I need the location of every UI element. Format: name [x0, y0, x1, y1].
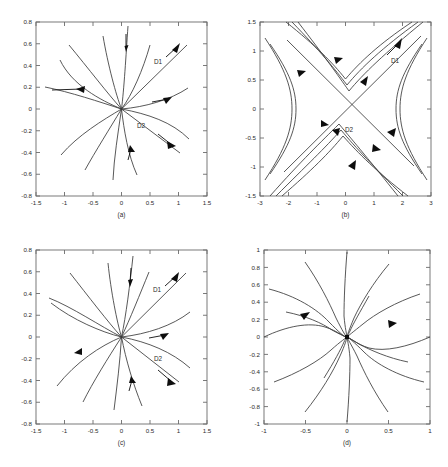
panel-c-ytick-0: 0.8 — [23, 246, 32, 253]
panel-c-ytick-4: 0 — [29, 333, 33, 340]
panel-d-ytick-2: 0.6 — [251, 281, 260, 288]
panel-c-ytick-3: 0.2 — [23, 311, 32, 318]
panel-b-label: (b) — [342, 211, 350, 219]
panel-b-ytick-4: -0.5 — [245, 134, 256, 141]
panel-a-ytick-5: -0.2 — [21, 127, 32, 134]
panel-a-ytick-8: -0.8 — [21, 192, 32, 199]
panel-d-equilibrium-point — [345, 335, 349, 339]
panel-a-xtick-1: -1 — [62, 199, 68, 206]
panel-b-xtick-4: 1 — [372, 199, 376, 206]
panel-a-arrow-tails — [52, 34, 177, 160]
panel-a-xtick-2: -0.5 — [88, 199, 99, 206]
panel-d-plot: -1 -0.5 0 0.5 1 1 0.8 0.6 0.4 0.2 0 -0.2… — [224, 234, 448, 467]
panel-a-ytick-4: 0 — [29, 105, 33, 112]
panel-b-xtick-3: 0 — [344, 199, 348, 206]
panel-c-xtick-4: 0.5 — [146, 427, 155, 434]
panel-b-ytick-1: 1 — [253, 47, 257, 54]
panel-c-xtick-3: 0 — [120, 427, 124, 434]
panel-d-ytick-1: 0.8 — [251, 264, 260, 271]
panel-d-ytick-4: 0.2 — [251, 316, 260, 323]
panel-b-ytick-6: -1.5 — [245, 192, 256, 199]
panel-c-xtick-2: -0.5 — [88, 427, 99, 434]
panel-c-ytick-1: 0.6 — [23, 268, 32, 275]
panel-d-ytick-5: 0 — [257, 333, 261, 340]
panel-d-ytick-9: -0.8 — [249, 403, 260, 410]
panel-b-xtick-1: -2 — [286, 199, 292, 206]
panel-a-ytick-0: 0.8 — [23, 18, 32, 25]
panel-c-xtick-6: 1.5 — [203, 427, 212, 434]
panel-b-xtick-2: -1 — [314, 199, 320, 206]
panel-d-xtick-4: 1 — [428, 427, 432, 434]
panel-d-label: (d) — [343, 439, 351, 447]
panel-c-ytick-7: -0.6 — [21, 398, 32, 405]
panel-d-ytick-7: -0.4 — [249, 368, 260, 375]
panel-c-d2-label: D2 — [154, 355, 163, 362]
panel-d-xtick-3: 0.5 — [384, 427, 393, 434]
panel-a-xtick-3: 0 — [120, 199, 124, 206]
panel-a-trajectories — [45, 26, 189, 180]
panel-b-xtick-5: 2 — [401, 199, 405, 206]
panel-d: -1 -0.5 0 0.5 1 1 0.8 0.6 0.4 0.2 0 -0.2… — [224, 234, 448, 467]
panel-a-ytick-6: -0.4 — [21, 149, 32, 156]
panel-b-d1-label: D1 — [391, 57, 400, 64]
panel-b-xtick-6: 3 — [429, 199, 433, 206]
panel-b: D1 D2 -3 -2 -1 0 1 2 3 1.5 1 0.5 0 -0.5 … — [224, 0, 448, 234]
panel-d-ytick-0: 1 — [257, 246, 261, 253]
panel-c-xtick-0: -1.5 — [31, 427, 42, 434]
panel-d-ytick-10: -1 — [254, 420, 260, 427]
panel-c-plot: D1 D2 -1.5 -1 -0.5 0 0.5 1 1.5 0.8 0.6 0… — [0, 234, 224, 467]
panel-d-xtick-0: -1 — [261, 427, 267, 434]
panel-a-xtick-0: -1.5 — [31, 199, 42, 206]
panel-b-ytick-2: 0.5 — [247, 76, 256, 83]
panel-a-ytick-2: 0.4 — [23, 62, 32, 69]
panel-a-plot: D1 D2 -1.5 -1 -0.5 0 0.5 1 1.5 0.8 0.6 0… — [0, 0, 224, 234]
panel-b-d2-label: D2 — [345, 126, 354, 133]
panel-c-ytick-8: -0.8 — [21, 420, 32, 427]
panel-c-label: (c) — [118, 439, 125, 447]
panel-b-ytick-0: 1.5 — [247, 18, 256, 25]
panel-d-xtick-2: 0 — [345, 427, 349, 434]
phase-portrait-figure: D1 D2 -1.5 -1 -0.5 0 0.5 1 1.5 0.8 0.6 0… — [0, 0, 448, 467]
panel-a-ytick-1: 0.6 — [23, 40, 32, 47]
panel-a-d1-label: D1 — [154, 58, 163, 65]
panel-a: D1 D2 -1.5 -1 -0.5 0 0.5 1 1.5 0.8 0.6 0… — [0, 0, 224, 234]
panel-c-d1-label: D1 — [153, 286, 162, 293]
panel-b-ytick-5: -1 — [250, 163, 256, 170]
panel-b-xtick-0: -3 — [257, 199, 263, 206]
panel-d-ytick-8: -0.6 — [249, 385, 260, 392]
panel-a-xtick-6: 1.5 — [203, 199, 212, 206]
panel-a-xtick-5: 1 — [177, 199, 181, 206]
panel-d-ytick-3: 0.4 — [251, 298, 260, 305]
panel-a-ytick-3: 0.2 — [23, 83, 32, 90]
panel-c-xtick-5: 1 — [177, 427, 181, 434]
panel-d-xtick-1: -0.5 — [300, 427, 311, 434]
panel-c-trajectories — [49, 256, 190, 410]
panel-a-direction-arrows — [76, 43, 180, 152]
panel-c-xtick-1: -1 — [62, 427, 68, 434]
panel-c: D1 D2 -1.5 -1 -0.5 0 0.5 1 1.5 0.8 0.6 0… — [0, 234, 224, 467]
panel-a-d2-label: D2 — [137, 122, 146, 129]
panel-c-ytick-2: 0.4 — [23, 290, 32, 297]
panel-b-plot: D1 D2 -3 -2 -1 0 1 2 3 1.5 1 0.5 0 -0.5 … — [224, 0, 448, 234]
panel-a-label: (a) — [118, 211, 126, 219]
panel-b-ytick-3: 0 — [253, 105, 257, 112]
panel-a-xtick-4: 0.5 — [146, 199, 155, 206]
panel-b-trajectories — [265, 22, 427, 196]
panel-d-direction-arrows — [300, 312, 397, 328]
panel-a-ytick-7: -0.6 — [21, 170, 32, 177]
panel-d-ytick-6: -0.2 — [249, 351, 260, 358]
panel-c-ytick-5: -0.2 — [21, 355, 32, 362]
panel-c-ytick-6: -0.4 — [21, 377, 32, 384]
panel-c-direction-arrows — [74, 272, 179, 386]
